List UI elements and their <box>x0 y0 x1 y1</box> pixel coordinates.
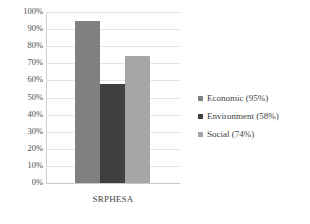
legend-item: Economic (95%) <box>198 89 308 107</box>
value-axis-tick: 0% <box>3 178 43 187</box>
legend-item-label: Environment (58%) <box>207 111 279 121</box>
value-axis-tick-labels: 100%90%80%70%60%50%40%30%20%10%0% <box>0 0 43 224</box>
legend: Economic (95%)Environment (58%)Social (7… <box>198 89 308 143</box>
bar-chart: 100%90%80%70%60%50%40%30%20%10%0% SRPHES… <box>0 0 310 224</box>
category-axis-label: SRPHESA <box>46 194 180 204</box>
legend-item-label: Economic (95%) <box>207 93 268 103</box>
value-axis-tick: 20% <box>3 144 43 153</box>
gridline <box>46 80 180 81</box>
legend-swatch-icon <box>198 96 203 101</box>
legend-item: Social (74%) <box>198 125 308 143</box>
value-axis-tick: 100% <box>3 7 43 16</box>
legend-swatch-icon <box>198 114 203 119</box>
bar-1 <box>75 21 100 183</box>
value-axis-tick: 50% <box>3 93 43 102</box>
value-axis-tick: 70% <box>3 58 43 67</box>
legend-item: Environment (58%) <box>198 107 308 125</box>
legend-swatch-icon <box>198 132 203 137</box>
value-axis-tick: 80% <box>3 41 43 50</box>
gridline <box>46 12 180 13</box>
plot-area <box>46 12 180 183</box>
value-axis-tick: 40% <box>3 110 43 119</box>
gridline <box>46 63 180 64</box>
bar-3 <box>125 56 150 183</box>
category-axis-line <box>46 183 180 184</box>
gridline <box>46 46 180 47</box>
gridline <box>46 29 180 30</box>
value-axis-tick: 10% <box>3 161 43 170</box>
value-axis-tick: 90% <box>3 24 43 33</box>
bar-2 <box>100 84 125 183</box>
value-axis-tick: 60% <box>3 75 43 84</box>
value-axis-tick: 30% <box>3 127 43 136</box>
legend-item-label: Social (74%) <box>207 129 254 139</box>
